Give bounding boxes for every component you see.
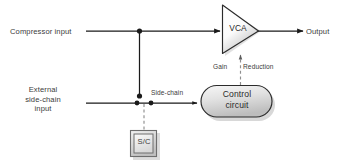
reduction-label: Reduction (243, 62, 274, 72)
junction-dot-compressor-tap (137, 28, 142, 33)
control-circuit-block-label: Control circuit (202, 89, 272, 111)
compressor-input-label: Compressor input (10, 27, 72, 37)
junction-dot-switch-left (135, 101, 140, 106)
external-sidechain-input-label: External side-chain input (0, 85, 86, 114)
control-circuit-line-2: circuit (202, 100, 272, 111)
external-input-line-3: input (0, 104, 86, 114)
gain-label: Gain (213, 62, 227, 72)
output-label: Output (306, 27, 329, 37)
signal-flow-diagram (0, 0, 346, 166)
vca-block-label: VCA (224, 24, 252, 34)
diagram-canvas: Compressor input External side-chain inp… (0, 0, 346, 166)
junction-dot-switch-right (149, 101, 154, 106)
sidechain-label: Side-chain (151, 88, 183, 98)
external-input-line-1: External (0, 85, 86, 95)
external-input-line-2: side-chain (0, 95, 86, 105)
control-circuit-line-1: Control (202, 89, 272, 100)
junction-dot-internal-source (137, 93, 142, 98)
sc-box-label: S/C (130, 137, 158, 147)
